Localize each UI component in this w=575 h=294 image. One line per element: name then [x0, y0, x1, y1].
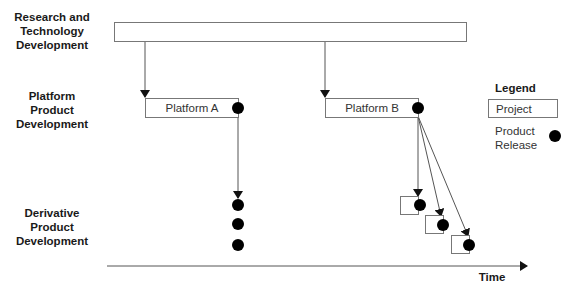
platform-a-release-dot — [232, 102, 244, 114]
legend-project-swatch: Project — [488, 99, 558, 118]
time-axis-label: Time — [472, 270, 512, 284]
derivative-b1-release-dot — [414, 199, 426, 211]
platform-b-label: Platform B — [345, 102, 399, 114]
platform-a-project: Platform A — [145, 98, 239, 118]
research-project-bar — [114, 22, 467, 42]
connector-lines — [0, 0, 575, 294]
legend-title: Legend — [495, 82, 536, 94]
platform-b-project: Platform B — [325, 98, 419, 118]
platform-b-release-dot — [412, 102, 424, 114]
label-line: Product — [495, 124, 537, 138]
legend-project-label: Project — [496, 103, 532, 115]
derivative-b3-release-dot — [463, 239, 475, 251]
derivative-a3-release-dot — [232, 239, 244, 251]
derivative-b2-release-dot — [437, 219, 449, 231]
label-line: Release — [495, 138, 537, 152]
derivative-a1-release-dot — [232, 199, 244, 211]
legend-release-dot — [549, 130, 561, 142]
derivative-a2-release-dot — [232, 218, 244, 230]
platform-a-label: Platform A — [165, 102, 218, 114]
legend-release-label: Product Release — [495, 124, 537, 152]
